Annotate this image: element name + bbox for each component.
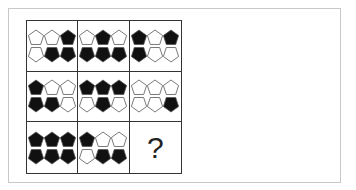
- pentagon-figure: [79, 28, 127, 64]
- puzzle-cell-r1c3: [130, 21, 181, 72]
- pentagon-ct: [45, 80, 60, 94]
- puzzle-cell-r1c2: [78, 21, 129, 72]
- pentagon-cb: [148, 98, 163, 112]
- pentagon-br: [164, 98, 179, 112]
- pentagon-br: [61, 47, 76, 61]
- puzzle-cell-r2c2: [78, 72, 129, 123]
- pentagon-tr: [164, 80, 179, 94]
- pentagon-br: [112, 149, 127, 163]
- pentagon-figure: [28, 78, 76, 114]
- pentagon-tl: [132, 80, 147, 94]
- pentagon-br: [164, 47, 179, 61]
- pentagon-bl: [80, 98, 95, 112]
- puzzle-cell-r2c3: [130, 72, 181, 123]
- pentagon-br: [112, 47, 127, 61]
- pentagon-cb: [45, 149, 60, 163]
- pentagon-figure: [28, 130, 76, 166]
- pentagon-bl: [29, 47, 44, 61]
- pentagon-tr: [61, 30, 76, 44]
- pentagon-cb: [96, 149, 111, 163]
- pentagon-tr: [61, 80, 76, 94]
- pentagon-br: [61, 98, 76, 112]
- pentagon-cb: [96, 47, 111, 61]
- pentagon-ct: [96, 80, 111, 94]
- puzzle-cell-r3c2: [78, 122, 129, 173]
- pentagon-cb: [45, 47, 60, 61]
- pentagon-ct: [96, 132, 111, 146]
- pentagon-ct: [45, 132, 60, 146]
- pentagon-cb: [45, 98, 60, 112]
- pentagon-ct: [45, 30, 60, 44]
- puzzle-cell-r3c1: [27, 122, 78, 173]
- pentagon-cb: [96, 98, 111, 112]
- pentagon-figure: [131, 28, 179, 64]
- pentagon-figure: [79, 130, 127, 166]
- puzzle-cell-r1c1: [27, 21, 78, 72]
- pentagon-tl: [80, 80, 95, 94]
- pentagon-bl: [29, 98, 44, 112]
- pentagon-ct: [96, 30, 111, 44]
- pentagon-bl: [29, 149, 44, 163]
- pentagon-tr: [164, 30, 179, 44]
- pentagon-tl: [29, 80, 44, 94]
- pentagon-tl: [29, 30, 44, 44]
- pentagon-br: [61, 149, 76, 163]
- puzzle-cell-r3c3[interactable]: ?: [130, 122, 181, 173]
- pentagon-tr: [112, 132, 127, 146]
- pentagon-tl: [80, 30, 95, 44]
- pentagon-bl: [80, 149, 95, 163]
- pentagon-tr: [112, 30, 127, 44]
- pentagon-tl: [80, 132, 95, 146]
- pentagon-figure: [79, 78, 127, 114]
- pentagon-bl: [132, 98, 147, 112]
- pentagon-br: [112, 98, 127, 112]
- pentagon-ct: [148, 80, 163, 94]
- pentagon-tl: [132, 30, 147, 44]
- pentagon-bl: [80, 47, 95, 61]
- pentagon-ct: [148, 30, 163, 44]
- pentagon-figure: [28, 28, 76, 64]
- question-mark: ?: [147, 133, 164, 163]
- pentagon-tr: [112, 80, 127, 94]
- pentagon-tr: [61, 132, 76, 146]
- puzzle-grid: ?: [26, 20, 182, 174]
- puzzle-cell-r2c1: [27, 72, 78, 123]
- pentagon-figure: [131, 78, 179, 114]
- pentagon-bl: [132, 47, 147, 61]
- pentagon-cb: [148, 47, 163, 61]
- pentagon-tl: [29, 132, 44, 146]
